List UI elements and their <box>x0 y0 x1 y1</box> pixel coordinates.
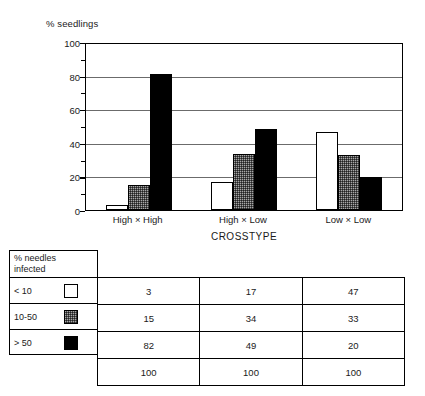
table-cell-r2-c3: 33 <box>302 305 404 332</box>
x-category-label-1: High × High <box>113 214 163 225</box>
table-cell-r2-c2: 34 <box>200 305 302 332</box>
legend-and-data-table: % needles infected < 1010-50> 50 3174715… <box>0 248 425 396</box>
legend-row-2: 10-50 <box>10 304 97 330</box>
legend-header-line2: infected <box>14 264 97 275</box>
y-tick-minor-50 <box>81 127 85 128</box>
y-tick-label-20: 20 <box>40 172 80 183</box>
bar-1-white <box>106 205 128 210</box>
bar-1-gray <box>128 185 150 210</box>
table-cell-r3-c3: 20 <box>302 332 404 359</box>
y-tick-major-100 <box>80 43 85 44</box>
legend-label-2: 10-50 <box>14 312 58 322</box>
legend-row-1: < 10 <box>10 278 97 304</box>
legend-box: % needles infected < 1010-50> 50 <box>9 250 98 355</box>
table-total-cell-c3: 100 <box>302 359 404 386</box>
x-axis-title: CROSSTYPE <box>85 231 403 242</box>
table-row: 824920 <box>98 332 405 359</box>
legend-swatch-white <box>64 284 78 298</box>
bar-chart-figure: % seedlings 020406080100 High × HighHigh… <box>0 0 425 250</box>
table-header-spacer-cell <box>302 250 404 278</box>
bar-2-black <box>255 129 277 210</box>
table-total-cell-c1: 100 <box>98 359 200 386</box>
y-tick-minor-10 <box>81 194 85 195</box>
bar-3-black <box>360 177 382 210</box>
y-tick-major-80 <box>80 77 85 78</box>
legend-header-line1: % needles <box>14 253 97 264</box>
x-axis-category-labels: High × HighHigh × LowLow × Low <box>85 214 403 230</box>
table-cell-r1-c1: 3 <box>98 278 200 305</box>
y-tick-label-40: 40 <box>40 138 80 149</box>
y-tick-major-60 <box>80 110 85 111</box>
legend-header: % needles infected <box>10 251 97 278</box>
x-category-label-3: Low × Low <box>325 214 371 225</box>
bar-2-white <box>211 182 233 210</box>
y-tick-label-80: 80 <box>40 71 80 82</box>
table-cell-r1-c3: 47 <box>302 278 404 305</box>
table-row: 31747 <box>98 278 405 305</box>
y-tick-label-60: 60 <box>40 105 80 116</box>
x-category-label-2: High × Low <box>219 214 267 225</box>
table-header-spacer-cell <box>98 250 200 278</box>
bar-3-gray <box>338 155 360 210</box>
legend-label-3: > 50 <box>14 338 58 348</box>
y-axis-tick-labels: 020406080100 <box>35 43 80 211</box>
table-cell-r1-c2: 17 <box>200 278 302 305</box>
bar-1-black <box>150 74 172 210</box>
table-cell-r3-c2: 49 <box>200 332 302 359</box>
table-header-spacer-cell <box>200 250 302 278</box>
table-total-cell-c2: 100 <box>200 359 302 386</box>
y-tick-major-0 <box>80 211 85 212</box>
y-axis-title: % seedlings <box>46 18 98 29</box>
y-tick-major-40 <box>80 144 85 145</box>
y-tick-label-100: 100 <box>40 38 80 49</box>
legend-label-1: < 10 <box>14 286 58 296</box>
legend-row-3: > 50 <box>10 330 97 356</box>
table-row: 153433 <box>98 305 405 332</box>
table-cell-r2-c1: 15 <box>98 305 200 332</box>
legend-swatch-gray <box>64 310 78 324</box>
y-tick-minor-90 <box>81 60 85 61</box>
bar-3-white <box>316 132 338 210</box>
legend-swatch-black <box>64 336 78 350</box>
y-tick-label-0: 0 <box>40 206 80 217</box>
table-header-spacer-row <box>98 250 405 278</box>
y-tick-minor-30 <box>81 161 85 162</box>
bars-layer <box>86 44 402 210</box>
data-table: 31747153433824920100100100 <box>97 250 405 386</box>
bar-2-gray <box>233 154 255 210</box>
y-tick-minor-70 <box>81 93 85 94</box>
table-cell-r3-c1: 82 <box>98 332 200 359</box>
table-total-row: 100100100 <box>98 359 405 386</box>
y-tick-major-20 <box>80 177 85 178</box>
